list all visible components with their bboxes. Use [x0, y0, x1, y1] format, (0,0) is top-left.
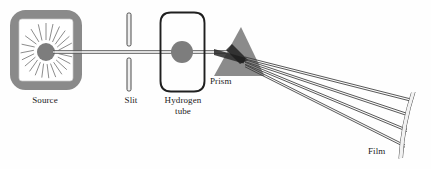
prism-label: Prism [210, 76, 262, 87]
incident-beam [53, 51, 240, 54]
hydrogen-tube-glow [171, 41, 193, 63]
prism [214, 27, 265, 76]
film-label: Film [368, 146, 402, 157]
slit-bar-top [127, 13, 131, 46]
source-label: Source [10, 95, 80, 106]
spectroscope-diagram: Source Slit Hydrogen tube Prism Film [0, 0, 431, 169]
slit-bar-bottom [127, 58, 131, 91]
dispersed-ray-fan [245, 57, 411, 147]
dispersed-ray-3 [245, 62, 407, 131]
hydrogen-tube-label: Hydrogen tube [147, 95, 219, 116]
source-emitter-dot [37, 43, 55, 61]
